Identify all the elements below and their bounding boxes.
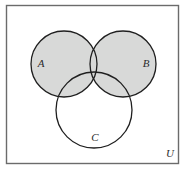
set-label-c: C	[91, 131, 99, 143]
set-label-b: B	[143, 57, 150, 69]
set-label-a: A	[37, 57, 45, 69]
venn-diagram-figure: A B C U	[0, 0, 186, 169]
universe-label: U	[166, 147, 175, 159]
venn-diagram-canvas: A B C U	[0, 0, 186, 169]
